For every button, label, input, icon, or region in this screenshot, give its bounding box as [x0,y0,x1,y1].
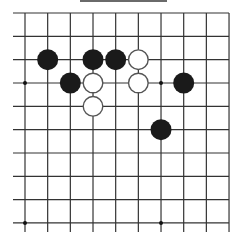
star-point [159,81,163,85]
white-stone [129,50,149,70]
black-stone [60,72,81,93]
star-point [159,221,163,225]
go-board[interactable] [0,0,241,242]
white-stone [83,73,103,93]
black-stone [151,119,172,140]
caption-cutoff [40,238,140,242]
black-stone [83,49,104,70]
board-grid [13,13,229,232]
white-stone [83,97,103,117]
white-stone [129,73,149,93]
black-stone [173,72,194,93]
star-point [23,81,27,85]
black-stone [105,49,126,70]
black-stone [37,49,58,70]
star-point [23,221,27,225]
